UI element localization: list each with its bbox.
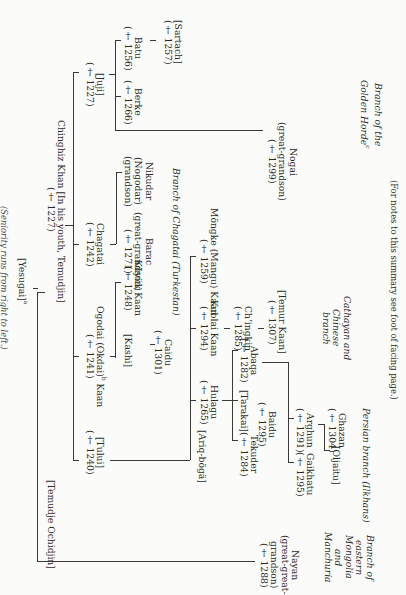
connector [190, 400, 196, 401]
node-nayan: Nayan(great-great-grandson)(† 1288) [258, 535, 300, 595]
node-yesugai: [Yesugai]a [16, 258, 31, 304]
branch-golden-horde: Branch of theGolden Hordec [358, 80, 383, 149]
node-chagatai: Chagatai(† 1242) [84, 222, 105, 266]
connector [115, 130, 263, 131]
branch-chagatai: Branch of Chagatai (Turkestan) [170, 168, 181, 316]
branch-eastern-mongolia: Branch ofeasternMongoliaandManchuria [322, 532, 375, 583]
branch-cathayan: Cathayan andChinesebranch [320, 296, 352, 360]
node-tului: [Tului](† 1240) [84, 430, 105, 474]
connector [110, 460, 190, 461]
connector [45, 561, 255, 562]
node-tarakai: [Tarakai] [238, 390, 249, 432]
connector [110, 244, 116, 245]
connector [73, 460, 79, 461]
node-chinghiz-khan: Chinghiz Khan [In his youth, Temudjin](†… [45, 120, 66, 298]
header-note: (Seniority runs from right to left.) [0, 206, 9, 350]
connector [288, 362, 289, 462]
connector [116, 172, 117, 244]
connector [190, 256, 196, 257]
node-ogodai: Ogodai (Okdai)b Kaan(† 1241) [84, 306, 109, 407]
connector [33, 288, 38, 289]
node-kublai: Kublai Kaan(† 1294) [198, 300, 219, 356]
connector [115, 40, 116, 130]
node-arghun: Arghun(† 1291) [294, 408, 315, 452]
node-sartach: [Sartach](† 1257) [162, 20, 183, 64]
node-caidu: Caidu(† 1301) [152, 330, 173, 374]
node-oljaitu: [Oljaitu] [330, 446, 341, 485]
connector [190, 328, 196, 329]
connector [73, 72, 74, 460]
branch-persian: Persian branch (Ilkhans) [360, 408, 371, 523]
connector [73, 244, 79, 245]
connector [37, 292, 38, 562]
connector [65, 225, 73, 226]
connector [115, 40, 121, 41]
connector [109, 74, 115, 75]
node-hulagu: Hulagu(† 1265) [198, 380, 219, 424]
connector [262, 362, 288, 363]
connector [115, 282, 121, 283]
connector [115, 96, 121, 97]
connector [190, 256, 191, 460]
node-nikudar: Nikudar(Nogodar)(grandson) [122, 156, 154, 207]
node-nogai: Nogai(great-grandson)(† 1299) [266, 122, 298, 201]
connector [73, 356, 79, 357]
connector [37, 292, 45, 293]
connector [224, 328, 230, 329]
connector [37, 561, 45, 562]
node-kashi: [Kashi] [122, 334, 133, 367]
node-temur: [Temur Kaan](† 1307) [266, 290, 287, 354]
connector [115, 282, 116, 358]
connector [232, 350, 233, 440]
node-abaqa: Abaqa(† 1282) [238, 338, 259, 382]
connector [324, 424, 325, 450]
node-temudje-ochidjin: [Temudje Ochidjin] [45, 480, 56, 569]
node-gaikhatu: Gaikhatu(† 1295) [294, 452, 315, 496]
node-kuyuk: Küyük Kaan(† 1248) [122, 260, 143, 316]
connector [222, 400, 232, 401]
node-juji: [Juji](† 1227) [84, 62, 105, 106]
connector [110, 356, 115, 357]
connector [258, 328, 264, 329]
node-berke: Berke(† 1266) [122, 80, 143, 124]
node-ariqboga: [Ariq-bögä] [196, 430, 207, 483]
node-batu: Batu(† 1256) [122, 26, 143, 70]
connector [150, 40, 156, 41]
footer-note: (For notes to this summary see foot of f… [388, 180, 399, 400]
node-tekuder: Tekuder(† 1284) [238, 432, 259, 476]
connector [73, 72, 79, 73]
